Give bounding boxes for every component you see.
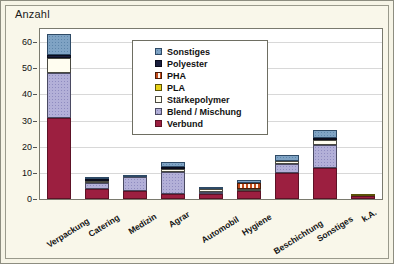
stacked-bar[interactable] <box>85 177 109 199</box>
bar-segment <box>161 194 185 199</box>
legend-label: Blend / Mischung <box>167 107 242 117</box>
y-tick-mark <box>33 147 37 148</box>
bar-segment <box>313 130 337 138</box>
chart-figure: Anzahl 0102030405060 VerpackungCateringM… <box>0 0 394 264</box>
legend-item[interactable]: Sonstiges <box>155 46 261 57</box>
y-axis-title: Anzahl <box>15 8 50 20</box>
y-axis: 0102030405060 <box>1 28 37 200</box>
bar-slot <box>344 29 382 199</box>
x-label-slot: k.A. <box>345 201 383 257</box>
legend-swatch-icon <box>155 108 162 115</box>
x-label-slot: Medizin <box>115 201 153 257</box>
stacked-bar[interactable] <box>123 175 147 199</box>
x-label-slot: Catering <box>77 201 115 257</box>
y-tick-label: 20 <box>22 142 32 152</box>
y-tick-mark <box>33 68 37 69</box>
bar-segment <box>161 172 185 194</box>
bar-segment <box>47 118 71 199</box>
bar-segment <box>275 164 299 173</box>
legend-swatch-icon <box>155 84 162 91</box>
legend-item[interactable]: PLA <box>155 82 261 93</box>
x-label-slot: Beschichtung <box>268 201 306 257</box>
bar-segment <box>47 34 71 55</box>
legend-label: Polyester <box>167 59 208 69</box>
chart-legend: SonstigesPolyesterPHAPLAStärkepolymerBle… <box>132 40 268 135</box>
bar-segment <box>351 196 375 199</box>
legend-item[interactable]: Polyester <box>155 58 261 69</box>
y-tick-label: 50 <box>22 63 32 73</box>
stacked-bar[interactable] <box>47 34 71 199</box>
stacked-bar[interactable] <box>161 162 185 199</box>
bar-segment <box>47 58 71 74</box>
bar-segment <box>199 194 223 199</box>
legend-label: PLA <box>167 83 185 93</box>
bar-segment <box>237 191 261 199</box>
stacked-bar[interactable] <box>199 187 223 199</box>
bar-segment <box>123 177 147 191</box>
legend-label: PHA <box>167 71 186 81</box>
x-label-slot: Automobil <box>192 201 230 257</box>
x-label-slot: Agrar <box>154 201 192 257</box>
y-tick-mark <box>33 42 37 43</box>
stacked-bar[interactable] <box>237 180 261 199</box>
bar-slot <box>78 29 116 199</box>
y-tick-mark <box>33 121 37 122</box>
y-tick-label: 60 <box>22 37 32 47</box>
bar-segment <box>85 189 109 199</box>
legend-item[interactable]: PHA <box>155 70 261 81</box>
bar-segment <box>123 191 147 199</box>
legend-item[interactable]: Stärkepolymer <box>155 94 261 105</box>
stacked-bar[interactable] <box>275 155 299 199</box>
bar-segment <box>47 73 71 117</box>
x-label-slot: Hygiene <box>230 201 268 257</box>
stacked-bar[interactable] <box>351 194 375 199</box>
y-tick-label: 0 <box>27 194 32 204</box>
legend-swatch-icon <box>155 60 162 67</box>
legend-item[interactable]: Verbund <box>155 118 261 129</box>
bar-slot <box>306 29 344 199</box>
legend-item[interactable]: Blend / Mischung <box>155 106 261 117</box>
x-axis-labels: VerpackungCateringMedizinAgrarAutomobilH… <box>39 201 383 257</box>
legend-label: Stärkepolymer <box>167 95 230 105</box>
legend-swatch-icon <box>155 120 162 127</box>
y-tick-mark <box>33 94 37 95</box>
x-tick-label: k.A. <box>360 207 379 224</box>
bar-slot <box>40 29 78 199</box>
x-label-slot: Sonstiges <box>307 201 345 257</box>
x-tick-label: Agrar <box>167 209 192 230</box>
stacked-bar[interactable] <box>313 130 337 199</box>
legend-swatch-icon <box>155 72 162 79</box>
legend-label: Sonstiges <box>167 47 210 57</box>
y-tick-label: 30 <box>22 116 32 126</box>
x-label-slot: Verpackung <box>39 201 77 257</box>
y-tick-mark <box>33 173 37 174</box>
bar-slot <box>268 29 306 199</box>
legend-swatch-icon <box>155 48 162 55</box>
bar-segment <box>313 145 337 167</box>
y-tick-mark <box>33 199 37 200</box>
legend-swatch-icon <box>155 96 162 103</box>
y-tick-label: 40 <box>22 89 32 99</box>
legend-label: Verbund <box>167 119 203 129</box>
bar-segment <box>313 168 337 199</box>
y-tick-label: 10 <box>22 168 32 178</box>
bar-segment <box>275 173 299 199</box>
